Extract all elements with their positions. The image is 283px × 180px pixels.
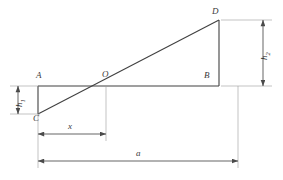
dimension-label-x: x <box>68 122 72 131</box>
point-label-d: D <box>212 7 219 16</box>
extension-lines <box>10 20 272 168</box>
dimension-lines <box>18 20 263 161</box>
geometry-figure: A O B C D h1 h2 x a <box>0 0 283 180</box>
dimension-label-h1-base: h <box>14 103 24 108</box>
dimension-label-h1-sub: 1 <box>19 99 26 102</box>
point-label-a: A <box>36 71 42 80</box>
dimension-label-h2: h2 <box>260 52 271 60</box>
point-label-b: B <box>204 71 210 80</box>
shape-outline <box>38 20 219 114</box>
dimension-label-h2-sub: 2 <box>264 52 271 55</box>
figure-canvas <box>0 0 283 180</box>
dimension-label-h2-base: h <box>259 56 269 61</box>
point-label-c: C <box>33 114 39 123</box>
segment-cd <box>38 20 219 114</box>
dimension-label-h1: h1 <box>15 99 26 107</box>
point-label-o: O <box>102 70 109 79</box>
dimension-label-a: a <box>136 149 141 158</box>
